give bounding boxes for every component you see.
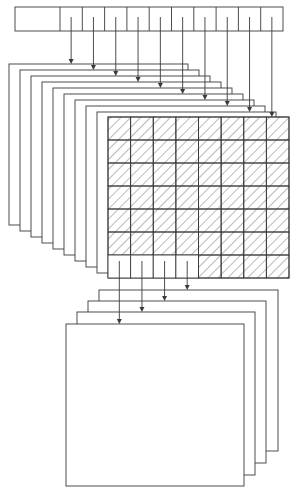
grid-cell-hatched (266, 140, 289, 163)
grid-cell-hatched (221, 232, 244, 255)
grid-cell-hatched (266, 209, 289, 232)
grid-cell-hatched (153, 186, 176, 209)
grid-cell-hatched (131, 163, 154, 186)
grid-cell-hatched (108, 209, 131, 232)
top-register (15, 7, 283, 31)
grid-cell-hatched (176, 209, 199, 232)
grid-cell-hatched (199, 209, 222, 232)
grid-cell-hatched (176, 163, 199, 186)
grid-cell-hatched (199, 163, 222, 186)
grid-cell-hatched (108, 163, 131, 186)
grid-cell-hatched (108, 140, 131, 163)
grid-cell-hatched (244, 255, 267, 278)
grid-cell-hatched (131, 186, 154, 209)
grid-cell-hatched (153, 209, 176, 232)
grid-cell-hatched (221, 117, 244, 140)
grid-cell-hatched (221, 186, 244, 209)
grid-cell-hatched (266, 255, 289, 278)
grid-output-arrow-4-head-icon (185, 285, 190, 290)
grid-cell-hatched (108, 232, 131, 255)
grid-cell-hatched (176, 232, 199, 255)
lower-frame-stack (66, 290, 278, 486)
grid-cell-hatched (153, 117, 176, 140)
grid-cell-hatched (199, 255, 222, 278)
grid-cell-hatched (131, 209, 154, 232)
grid-cell-hatched (199, 186, 222, 209)
grid-cell-hatched (131, 140, 154, 163)
grid-cell-hatched (244, 140, 267, 163)
grid-cell-hatched (153, 163, 176, 186)
grid-cell-hatched (199, 232, 222, 255)
grid-cell-hatched (266, 186, 289, 209)
grid-cell-hatched (176, 140, 199, 163)
diagram-figure (0, 0, 295, 496)
grid-cell-hatched (199, 140, 222, 163)
grid-cell-hatched (221, 140, 244, 163)
grid-cell-hatched (176, 186, 199, 209)
grid-cell-hatched (244, 209, 267, 232)
grid-cell-hatched (108, 186, 131, 209)
grid-cell-hatched (131, 232, 154, 255)
grid-cell-hatched (199, 117, 222, 140)
grid-cell-hatched (266, 163, 289, 186)
grid-cell-hatched (221, 209, 244, 232)
register-arrow-1-head-icon (69, 59, 74, 64)
diagram-canvas (0, 0, 295, 496)
grid-cell-hatched (153, 140, 176, 163)
grid-cell-hatched (266, 232, 289, 255)
output-frame-4 (66, 324, 244, 486)
grid-cell-hatched (244, 163, 267, 186)
grid-cell-hatched (221, 163, 244, 186)
grid-cell-hatched (244, 232, 267, 255)
grid-cell-hatched (244, 186, 267, 209)
grid-cell-hatched (153, 232, 176, 255)
grid-cell-hatched (266, 117, 289, 140)
grid-cell-hatched (131, 117, 154, 140)
hatched-grid (108, 117, 289, 278)
grid-cell-hatched (221, 255, 244, 278)
grid-cell-hatched (244, 117, 267, 140)
grid-cell-hatched (108, 117, 131, 140)
grid-cell-hatched (176, 117, 199, 140)
